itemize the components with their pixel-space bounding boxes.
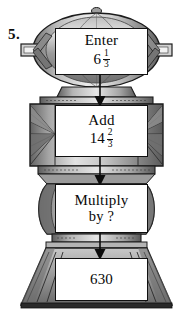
- arrow-add-to-multiply: [93, 156, 107, 186]
- step-box-enter: Enter 6 1 3: [55, 28, 148, 75]
- worksheet-figure: 5.: [0, 0, 193, 325]
- step-enter-value: 6 1 3: [93, 48, 109, 69]
- step-multiply-label-line1: Multiply: [74, 193, 128, 208]
- arrow-enter-to-add: [93, 74, 107, 107]
- step-add-value: 14 2 3: [90, 128, 114, 149]
- step-add-whole: 14: [90, 131, 105, 146]
- step-box-add: Add 14 2 3: [55, 105, 148, 157]
- step-add-label: Add: [88, 113, 114, 128]
- step-result-value: 630: [90, 272, 113, 287]
- step-multiply-label-line2: by ?: [89, 209, 114, 224]
- step-enter-numerator: 1: [103, 49, 110, 59]
- step-box-multiply: Multiply by ?: [55, 184, 148, 233]
- step-enter-whole: 6: [93, 52, 101, 67]
- step-enter-fraction: 1 3: [103, 49, 110, 70]
- step-add-denominator: 3: [107, 139, 114, 150]
- step-enter-denominator: 3: [103, 59, 110, 70]
- arrow-multiply-to-result: [93, 232, 107, 260]
- step-box-result: 630: [55, 258, 148, 301]
- step-enter-label: Enter: [85, 33, 118, 48]
- step-add-numerator: 2: [107, 128, 114, 138]
- step-add-fraction: 2 3: [107, 128, 114, 149]
